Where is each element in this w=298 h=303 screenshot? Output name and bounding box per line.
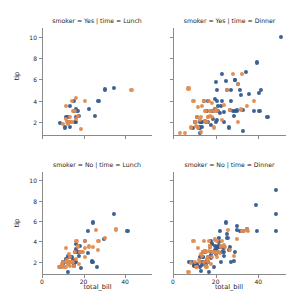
scatter-point: [112, 86, 116, 90]
scatter-point: [240, 72, 244, 76]
scatter-point: [67, 115, 71, 119]
y-axis-tick: [170, 101, 173, 102]
x-axis-tick: [216, 136, 217, 139]
y-axis-tick: [39, 58, 42, 59]
scatter-point: [201, 239, 205, 243]
y-axis-label-bottom: tip: [13, 203, 21, 243]
plot-area[interactable]: 24681002040: [42, 172, 152, 275]
y-axis-tick-label: 6: [33, 217, 37, 224]
scatter-point: [247, 92, 251, 96]
facet-panel-yes-lunch: smoker = Yes | time = Lunch 246810: [42, 28, 152, 136]
scatter-point: [64, 246, 68, 250]
scatter-point: [93, 114, 97, 118]
scatter-point: [79, 266, 83, 270]
plot-area[interactable]: 02040: [173, 172, 286, 275]
scatter-point: [236, 82, 240, 86]
scatter-point: [224, 79, 228, 83]
scatter-point: [114, 227, 118, 231]
y-axis-tick-label: 10: [29, 33, 37, 40]
scatter-point: [218, 229, 222, 233]
scatter-point: [64, 265, 68, 269]
scatter-point: [196, 105, 200, 109]
scatter-point: [227, 125, 231, 129]
scatter-point: [257, 109, 261, 113]
scatter-point: [257, 91, 261, 95]
scatter-point: [232, 254, 236, 258]
scatter-point: [74, 239, 78, 243]
y-axis-tick: [170, 37, 173, 38]
scatter-point: [91, 260, 95, 264]
scatter-point: [196, 246, 200, 250]
y-axis-spine: [173, 28, 174, 136]
x-axis-label-right: total_bill: [170, 283, 288, 291]
scatter-point: [229, 260, 233, 264]
scatter-point: [129, 88, 133, 92]
scatter-point: [241, 129, 245, 133]
scatter-point: [87, 107, 91, 111]
scatter-point: [200, 104, 204, 108]
scatter-point: [265, 115, 269, 119]
x-axis-tick-label: 20: [80, 278, 88, 285]
scatter-point: [279, 35, 283, 39]
x-axis-label-left: total_bill: [40, 283, 155, 291]
y-axis-tick-label: 4: [33, 238, 37, 245]
y-axis-tick-label: 8: [33, 197, 37, 204]
scatter-point: [254, 203, 258, 207]
scatter-point: [228, 248, 232, 252]
scatter-point: [234, 237, 238, 241]
x-axis-spine: [173, 274, 286, 275]
scatter-point: [274, 211, 278, 215]
scatter-point: [200, 125, 204, 129]
y-axis-tick-label: 2: [33, 119, 37, 126]
scatter-point: [96, 99, 100, 103]
scatter-point: [186, 86, 190, 90]
scatter-point: [96, 239, 100, 243]
scatter-point: [83, 99, 87, 103]
x-axis-tick: [173, 136, 174, 139]
scatter-point: [103, 236, 107, 240]
y-axis-tick-label: 4: [33, 97, 37, 104]
scatter-point: [255, 229, 259, 233]
scatter-point: [86, 229, 90, 233]
x-axis-tick-label: 0: [40, 278, 44, 285]
scatter-point: [233, 249, 237, 253]
scatter-point: [224, 220, 228, 224]
y-axis-tick: [170, 58, 173, 59]
scatter-point: [198, 130, 202, 134]
y-axis-spine: [42, 28, 43, 136]
scatter-point: [229, 99, 233, 103]
scatter-point: [215, 255, 219, 259]
facet-panel-no-dinner: smoker = No | time = Dinner 02040: [173, 172, 286, 275]
x-axis-tick-label: 40: [121, 278, 129, 285]
scatter-point: [210, 255, 214, 259]
scatter-point: [199, 115, 203, 119]
scatter-point: [72, 264, 76, 268]
facet-panel-no-lunch: smoker = No | time = Lunch 24681002040: [42, 172, 152, 275]
facet-title: smoker = Yes | time = Dinner: [173, 17, 286, 25]
scatter-point: [83, 255, 87, 259]
scatter-point: [239, 93, 243, 97]
scatter-point: [252, 99, 256, 103]
y-axis-tick: [39, 221, 42, 222]
y-axis-tick: [39, 37, 42, 38]
scatter-point: [236, 120, 240, 124]
scatter-point: [74, 95, 78, 99]
facet-panel-yes-dinner: smoker = Yes | time = Dinner: [173, 28, 286, 136]
y-axis-tick: [170, 241, 173, 242]
scatter-point: [218, 111, 222, 115]
x-axis-spine: [173, 135, 286, 136]
plot-area[interactable]: 246810: [42, 28, 152, 136]
scatter-point: [222, 254, 226, 258]
x-axis-tick-label: 40: [254, 278, 262, 285]
scatter-point: [219, 260, 223, 264]
scatter-point: [238, 88, 242, 92]
plot-area[interactable]: [173, 28, 286, 136]
x-axis-spine: [42, 274, 152, 275]
x-axis-tick: [258, 136, 259, 139]
scatter-point: [231, 72, 235, 76]
scatter-point: [191, 99, 195, 103]
facet-grid-figure: tip tip total_bill total_bill smoker = Y…: [0, 0, 298, 303]
y-axis-tick: [170, 122, 173, 123]
y-axis-tick: [170, 262, 173, 263]
scatter-point: [274, 229, 278, 233]
